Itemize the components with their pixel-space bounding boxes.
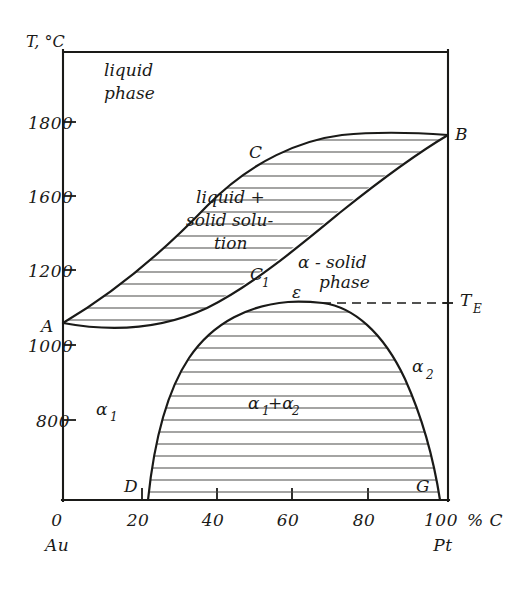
region-label-alpha-solid-line2: phase — [319, 272, 370, 292]
point-label-TE: T E — [460, 290, 482, 316]
region-label-lens-line2: solid solu- — [186, 210, 273, 230]
region-label-liquid-phase-line2: phase — [104, 83, 155, 103]
gap-label-plus-alpha: +α — [268, 393, 294, 413]
region-label-lens-line3: tion — [214, 233, 247, 253]
lens-hatch-group — [60, 140, 455, 320]
point-label-epsilon: ε — [292, 282, 301, 302]
point-label-B: B — [454, 124, 468, 144]
right-component-label: Pt — [432, 535, 452, 555]
dome-hatch-group — [140, 312, 450, 492]
gap-label-alpha: α — [248, 393, 260, 413]
region-label-alpha2-subscript: 2 — [425, 368, 434, 382]
x-axis-unit-label: % C — [467, 510, 503, 530]
x-tick-label-0: 0 — [51, 510, 62, 530]
x-tick-label-80: 80 — [353, 510, 376, 530]
x-axis-ticks — [142, 488, 368, 500]
point-label-TE-symbol: T — [460, 290, 473, 310]
x-tick-label-100: 100 — [424, 510, 458, 530]
region-label-alpha1: α 1 — [96, 399, 118, 424]
region-label-alpha2-symbol: α — [412, 356, 424, 376]
point-label-A: A — [39, 316, 53, 336]
point-label-C1-subscript: 1 — [262, 276, 270, 290]
region-label-alpha2: α 2 — [412, 356, 434, 382]
y-tick-label-1800: 1800 — [28, 113, 73, 133]
y-tick-label-800: 800 — [36, 411, 70, 431]
point-label-D: D — [123, 476, 138, 496]
point-label-C: C — [249, 142, 262, 162]
region-label-alpha1-plus-alpha2: α 1 +α 2 — [248, 393, 300, 418]
y-tick-label-1200: 1200 — [28, 261, 73, 281]
y-axis-title: T, °C — [26, 32, 65, 51]
point-label-G: G — [416, 476, 430, 496]
left-component-label: Au — [43, 535, 69, 555]
x-tick-label-60: 60 — [277, 510, 300, 530]
region-label-lens-line1: liquid + — [196, 187, 265, 207]
phase-diagram-figure: 1800 1600 1200 1000 800 T, °C 0 20 40 60… — [0, 0, 523, 595]
region-label-liquid-phase-line1: liquid — [104, 60, 153, 80]
region-label-alpha1-symbol: α — [96, 399, 108, 419]
x-tick-label-40: 40 — [201, 510, 225, 530]
x-tick-label-20: 20 — [126, 510, 150, 530]
region-label-alpha1-subscript: 1 — [110, 410, 118, 424]
y-tick-label-1000: 1000 — [28, 336, 73, 356]
gap-label-sub2: 2 — [291, 404, 300, 418]
miscibility-gap-curve — [148, 302, 440, 500]
point-label-TE-subscript: E — [472, 302, 482, 316]
region-label-alpha-solid-line1: α - solid — [298, 252, 367, 272]
y-tick-label-1600: 1600 — [28, 187, 73, 207]
point-label-C1: C 1 — [250, 264, 270, 290]
